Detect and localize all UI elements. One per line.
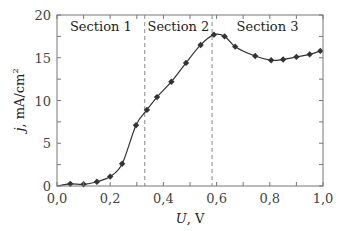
x-tick-label: 0,2 bbox=[100, 191, 121, 206]
x-tick-label: 1,0 bbox=[313, 191, 334, 206]
y-tick-labels: 05101520 bbox=[34, 8, 51, 194]
section-label: Section 3 bbox=[237, 19, 299, 34]
section-labels: Section 1Section 2Section 3 bbox=[70, 19, 299, 34]
x-tick-label: 0,4 bbox=[153, 191, 174, 206]
section-label: Section 2 bbox=[147, 19, 209, 34]
diamond-marker bbox=[252, 53, 258, 59]
x-tick-labels: 0,00,20,40,60,81,0 bbox=[47, 191, 334, 206]
diamond-marker bbox=[133, 122, 139, 128]
x-tick-label: 0,6 bbox=[206, 191, 227, 206]
diamond-marker bbox=[280, 56, 286, 62]
y-tick-label: 0 bbox=[43, 179, 51, 194]
diamond-marker bbox=[307, 51, 313, 57]
x-axis-label: U, V bbox=[176, 211, 205, 226]
y-axis-var: j bbox=[12, 128, 27, 135]
diamond-marker bbox=[268, 57, 274, 63]
diamond-marker bbox=[119, 161, 125, 167]
diamond-marker bbox=[293, 54, 299, 60]
series-line bbox=[57, 34, 320, 186]
y-tick-label: 5 bbox=[43, 136, 51, 151]
y-axis-unit: , mA/cm bbox=[12, 74, 27, 128]
line-chart: 0,00,20,40,60,81,0 05101520 Section 1Sec… bbox=[0, 0, 349, 231]
diamond-marker bbox=[94, 179, 100, 185]
y-tick-label: 10 bbox=[34, 94, 51, 109]
y-tick-label: 15 bbox=[34, 51, 51, 66]
y-tick-label: 20 bbox=[34, 8, 51, 23]
x-tick-label: 0,8 bbox=[259, 191, 280, 206]
y-axis-unit-superscript: 2 bbox=[11, 68, 20, 73]
plot-frame bbox=[57, 15, 323, 186]
y-axis-label: j, mA/cm2 bbox=[11, 68, 27, 134]
data-markers bbox=[67, 31, 323, 187]
data-curve bbox=[57, 34, 320, 186]
x-axis-unit: , V bbox=[187, 211, 205, 226]
axis-ticks bbox=[57, 15, 323, 186]
section-label: Section 1 bbox=[70, 19, 132, 34]
